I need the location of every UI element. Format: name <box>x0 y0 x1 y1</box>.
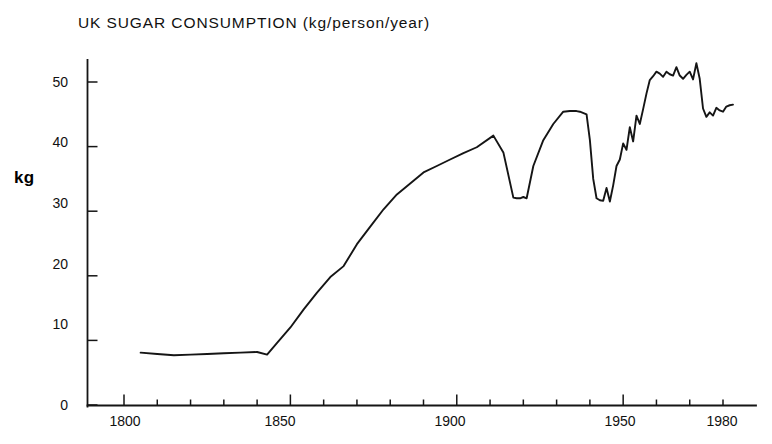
y-tick-label-20: 20 <box>42 256 68 272</box>
y-tick-label-50: 50 <box>42 74 68 90</box>
y-axis-label: kg <box>14 168 34 188</box>
x-tick-label-1980: 1980 <box>696 413 748 429</box>
y-tick-label-0: 0 <box>42 397 68 413</box>
data-series-line <box>141 63 733 355</box>
x-tick-label-1850: 1850 <box>254 413 306 429</box>
x-tick-label-1800: 1800 <box>99 413 151 429</box>
y-tick-marks <box>88 82 98 405</box>
y-tick-label-10: 10 <box>42 316 68 332</box>
plot-area <box>0 0 772 444</box>
chart-title: UK SUGAR CONSUMPTION (kg/person/year) <box>78 14 430 32</box>
x-tick-label-1900: 1900 <box>424 413 476 429</box>
x-tick-marks <box>124 395 723 406</box>
chart-figure: UK SUGAR CONSUMPTION (kg/person/year) kg… <box>0 0 772 444</box>
x-tick-label-1950: 1950 <box>594 413 646 429</box>
y-tick-label-40: 40 <box>42 134 68 150</box>
y-tick-label-30: 30 <box>42 195 68 211</box>
